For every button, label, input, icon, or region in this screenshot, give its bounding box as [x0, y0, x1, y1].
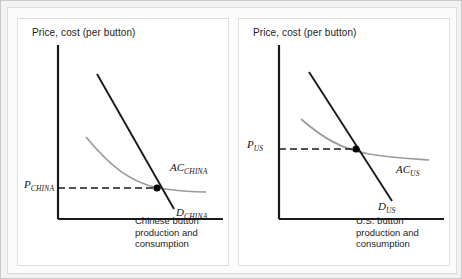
panel-china-caption-line-2: production and — [135, 227, 227, 239]
panel-china-caption-line-1: Chinese button — [135, 215, 227, 227]
panel-us-caption: U.S. button production and consumption — [356, 215, 448, 250]
us-demand-curve — [309, 72, 392, 201]
panel-us-caption-line-2: production and — [356, 227, 448, 239]
panel-china-caption-line-3: consumption — [135, 238, 227, 250]
us-ac-subscript: US — [410, 169, 420, 178]
china-equilibrium-dot — [153, 184, 160, 191]
us-ac-symbol: AC — [396, 163, 410, 175]
panel-us-caption-line-1: U.S. button — [356, 215, 448, 227]
panel-us: Price, cost (per button) PUS ACUS DUS — [238, 18, 450, 266]
us-d-symbol: D — [378, 200, 386, 212]
us-price-symbol: P — [247, 138, 254, 150]
panel-us-caption-line-3: consumption — [356, 238, 448, 250]
china-price-subscript: CHINA — [31, 184, 55, 193]
panel-china: Price, cost (per button) PCHINA AC — [17, 18, 229, 266]
us-equilibrium-dot — [352, 145, 359, 152]
us-d-subscript: US — [386, 206, 396, 215]
panel-china-caption: Chinese button production and consumptio… — [135, 215, 227, 250]
china-ac-subscript: CHINA — [184, 167, 208, 176]
us-price-label: PUS — [247, 139, 263, 150]
us-price-subscript: US — [254, 144, 264, 153]
us-average-cost-curve — [301, 119, 429, 160]
china-price-label: PCHINA — [24, 179, 54, 190]
us-average-cost-label: ACUS — [396, 164, 420, 175]
figure-frame: Price, cost (per button) PCHINA AC — [0, 0, 462, 279]
china-ac-symbol: AC — [170, 161, 184, 173]
china-price-symbol: P — [24, 178, 31, 190]
figure-inner-frame: Price, cost (per button) PCHINA AC — [7, 7, 457, 274]
china-average-cost-label: ACCHINA — [170, 162, 208, 173]
us-demand-label: DUS — [378, 201, 396, 212]
